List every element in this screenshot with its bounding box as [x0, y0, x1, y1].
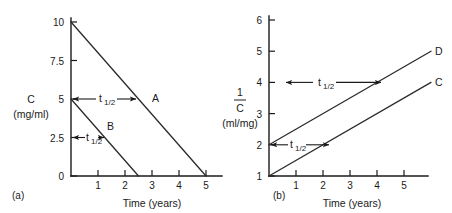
panel-b-half-life-C-text: t [290, 138, 293, 150]
panel-a: 10 7.5 5 2.5 0 1 2 3 4 5 A [12, 17, 222, 209]
panel-b-xtick-4: 4 [374, 180, 380, 191]
panel-a-half-life-B-subscript: 1/2 [91, 137, 103, 146]
panel-a-half-life-B-text: t [86, 131, 89, 143]
panel-b-ytick-6: 6 [256, 15, 262, 26]
panel-b-label: (b) [273, 190, 285, 201]
panel-b-xtick-2: 2 [320, 180, 326, 191]
panel-b-y-axis-numerator: 1 [237, 86, 243, 98]
panel-b-xtick-5: 5 [401, 180, 407, 191]
panel-a-xtick-1: 1 [95, 180, 101, 191]
panel-a-ytick-7-5: 7.5 [50, 56, 64, 67]
panel-b-series-D-label: D [435, 45, 443, 57]
panel-a-ytick-2-5: 2.5 [50, 133, 64, 144]
panel-b-ytick-4: 4 [256, 77, 262, 88]
panel-a-half-life-B-annotation: t 1/2 [73, 131, 104, 146]
panel-b-ytick-1: 1 [256, 171, 262, 182]
figure-container: 10 7.5 5 2.5 0 1 2 3 4 5 A [0, 0, 452, 213]
panel-b: 6 5 4 3 2 1 1 2 3 4 5 [222, 15, 443, 209]
panel-b-x-ticks [296, 170, 404, 176]
panel-b-half-life-D-text: t [318, 76, 321, 88]
panel-a-ytick-5: 5 [58, 94, 64, 105]
panel-b-series-C-label: C [435, 76, 443, 88]
figure-svg: 10 7.5 5 2.5 0 1 2 3 4 5 A [0, 0, 452, 213]
panel-a-ytick-0: 0 [58, 171, 64, 182]
panel-b-half-life-D-subscript: 1/2 [323, 82, 335, 91]
panel-b-ytick-5: 5 [256, 46, 262, 57]
panel-a-y-axis-units: (mg/ml) [13, 108, 49, 120]
panel-b-xtick-3: 3 [347, 180, 353, 191]
panel-b-y-ticks [269, 20, 275, 176]
panel-b-ytick-2: 2 [256, 140, 262, 151]
panel-b-series-D-line [269, 51, 431, 145]
panel-a-x-axis-title: Time (years) [123, 197, 182, 209]
panel-a-y-axis-title: C [27, 93, 35, 105]
panel-b-y-axis-units: (ml/mg) [222, 117, 258, 129]
panel-a-half-life-A-annotation: t 1/2 [73, 92, 136, 107]
panel-a-series-B-label: B [107, 120, 114, 132]
panel-b-half-life-C-subscript: 1/2 [295, 144, 307, 153]
panel-a-x-ticks [98, 170, 206, 176]
panel-b-series-C-line [269, 82, 431, 176]
panel-a-ytick-10: 10 [53, 17, 65, 28]
panel-b-xtick-1: 1 [293, 180, 299, 191]
panel-b-x-axis-title: Time (years) [323, 197, 382, 209]
panel-a-xtick-5: 5 [203, 180, 209, 191]
panel-a-xtick-4: 4 [176, 180, 182, 191]
panel-a-half-life-A-text: t [99, 92, 102, 104]
panel-b-y-axis-denominator: C [236, 102, 244, 114]
panel-a-label: (a) [12, 190, 24, 201]
panel-a-half-life-A-subscript: 1/2 [104, 98, 116, 107]
panel-b-half-life-C-annotation: t 1/2 [271, 138, 329, 153]
panel-a-series-A-label: A [152, 92, 159, 104]
panel-a-xtick-3: 3 [149, 180, 155, 191]
panel-a-xtick-2: 2 [122, 180, 128, 191]
